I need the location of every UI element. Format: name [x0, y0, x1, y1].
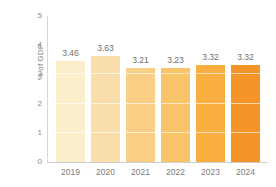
x-tick-label-2019: 2019	[61, 168, 80, 177]
bar-column-2023[interactable]: 3.32 2023	[196, 16, 225, 162]
bar-gridline	[231, 73, 260, 74]
y-tick-label-2: 2	[26, 100, 42, 108]
bar-2020[interactable]	[91, 56, 120, 162]
bar-gridline	[56, 103, 85, 104]
bar-value-label-2020: 3.63	[97, 44, 114, 53]
bar-gridline	[126, 73, 155, 74]
y-tick-label-3: 3	[26, 70, 42, 78]
bar-gridline	[91, 73, 120, 74]
bar-value-label-2021: 3.21	[132, 56, 149, 65]
bar-gridline	[161, 103, 190, 104]
y-tick-label-0: 0	[26, 158, 42, 166]
bar-column-2019[interactable]: 3.46 2019	[56, 16, 85, 162]
bar-gridline	[56, 132, 85, 133]
bar-gridline	[231, 103, 260, 104]
bar-gridline	[91, 103, 120, 104]
bar-gridline	[231, 132, 260, 133]
x-tick-label-2023: 2023	[201, 168, 220, 177]
bar-gridline	[196, 132, 225, 133]
bar-2019[interactable]	[56, 61, 85, 162]
x-tick-label-2024: 2024	[236, 168, 255, 177]
bar-2023[interactable]	[196, 65, 225, 162]
plot-area: 0 1 2 3 4 5 3.46 2019 3.63	[47, 16, 268, 162]
bar-gridline	[56, 73, 85, 74]
x-tick-label-2021: 2021	[131, 168, 150, 177]
y-tick-label-1: 1	[26, 129, 42, 137]
bar-gridline	[161, 73, 190, 74]
bar-value-label-2019: 3.46	[62, 49, 79, 58]
x-tick-label-2022: 2022	[166, 168, 185, 177]
bar-2022[interactable]	[161, 68, 190, 162]
bar-value-label-2024: 3.32	[237, 53, 254, 62]
bar-series: 3.46 2019 3.63 2020 3.21	[48, 16, 268, 162]
bar-gridline	[161, 132, 190, 133]
x-tick-label-2020: 2020	[96, 168, 115, 177]
bar-gridline	[196, 103, 225, 104]
bar-gridline	[126, 103, 155, 104]
bar-value-label-2022: 3.23	[167, 56, 184, 65]
y-tick-label-4: 4	[26, 41, 42, 49]
bar-chart: % of GDP 0 1 2 3 4 5 3.46 2019 3.63	[0, 0, 276, 187]
bar-gridline	[196, 73, 225, 74]
bar-gridline	[91, 132, 120, 133]
bar-2021[interactable]	[126, 68, 155, 162]
bar-column-2024[interactable]: 3.32 2024	[231, 16, 260, 162]
x-axis-line	[47, 162, 268, 163]
y-tick-label-5: 5	[26, 12, 42, 20]
bar-gridline	[126, 132, 155, 133]
bar-column-2021[interactable]: 3.21 2021	[126, 16, 155, 162]
bar-2024[interactable]	[231, 65, 260, 162]
bar-value-label-2023: 3.32	[202, 53, 219, 62]
bar-column-2022[interactable]: 3.23 2022	[161, 16, 190, 162]
bar-column-2020[interactable]: 3.63 2020	[91, 16, 120, 162]
